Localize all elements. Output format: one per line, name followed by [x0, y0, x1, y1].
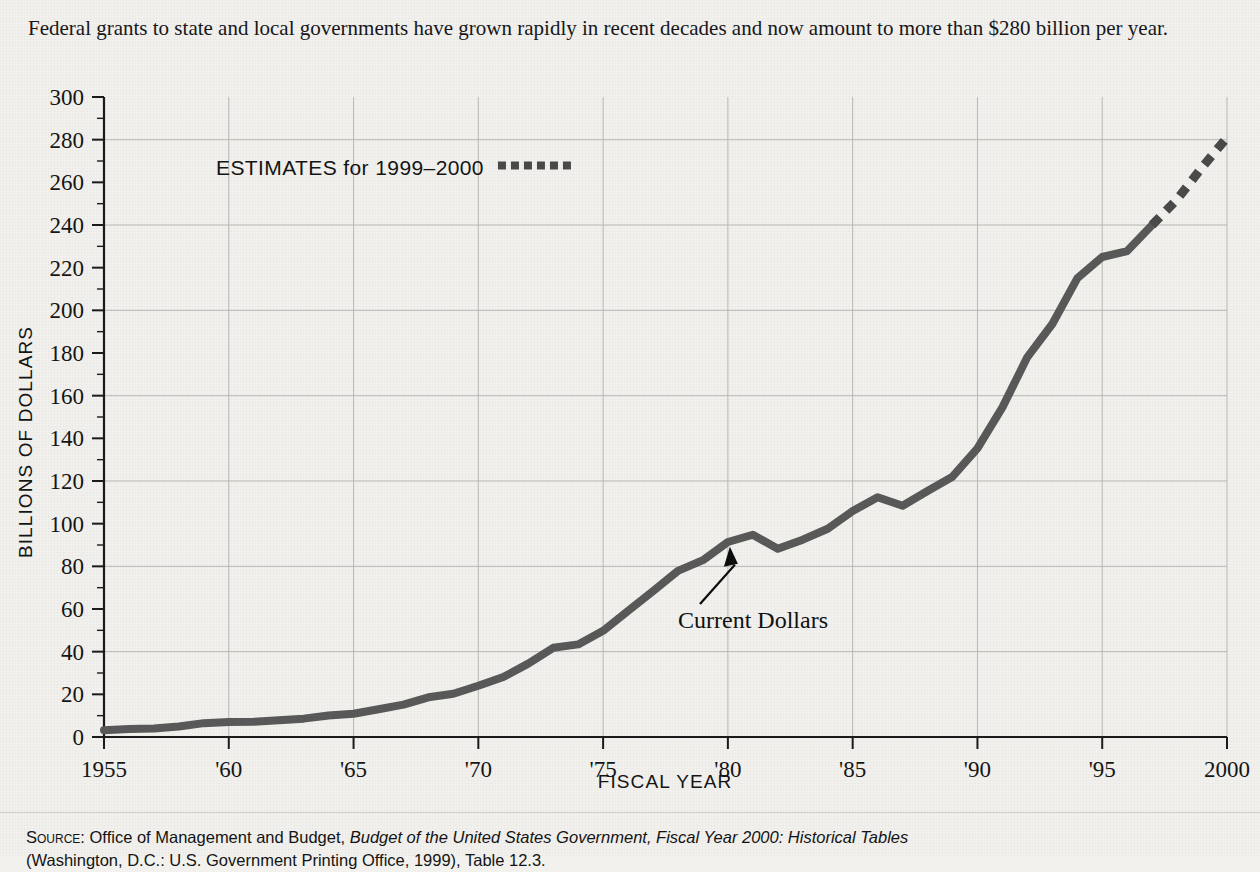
- x-tick-label: 2000: [1204, 757, 1250, 782]
- x-tick-label: '65: [340, 757, 367, 782]
- chart-caption: Federal grants to state and local govern…: [28, 14, 1218, 43]
- chart-legend: ESTIMATES for 1999–2000: [216, 156, 571, 179]
- y-tick-label: 40: [61, 640, 84, 665]
- x-tick-label: '85: [839, 757, 866, 782]
- y-tick-label: 160: [50, 384, 85, 409]
- y-tick-label: 100: [50, 512, 85, 537]
- series-line-current-dollars[interactable]: [104, 225, 1152, 730]
- source-prefix: Source:: [26, 828, 85, 846]
- x-tick-label: '90: [964, 757, 991, 782]
- x-tick-label: '95: [1089, 757, 1116, 782]
- x-tick-label: '70: [465, 757, 492, 782]
- y-tick-label: 0: [73, 725, 85, 750]
- legend-dash-segment: [550, 162, 558, 170]
- y-axis-title: BILLIONS OF DOLLARS: [15, 326, 36, 558]
- legend-dash-segment: [563, 162, 571, 170]
- legend-dash-segment: [537, 162, 545, 170]
- source-divider: [0, 812, 1260, 813]
- y-tick-label: 60: [61, 597, 84, 622]
- y-tick-label: 240: [50, 213, 85, 238]
- source-line2: (Washington, D.C.: U.S. Government Print…: [26, 851, 546, 869]
- source-note: Source: Office of Management and Budget,…: [26, 826, 1246, 872]
- y-tick-label: 300: [50, 85, 85, 110]
- annotation-arrow-icon: [700, 565, 735, 604]
- x-tick-label: 1955: [81, 757, 127, 782]
- axes-group: [104, 97, 1227, 737]
- y-tick-label: 120: [50, 469, 85, 494]
- y-tick-label: 180: [50, 341, 85, 366]
- y-tick-label: 280: [50, 128, 85, 153]
- y-tick-label: 80: [61, 554, 84, 579]
- data-series-group[interactable]: [104, 138, 1227, 731]
- gridlines-group: [104, 97, 1227, 737]
- legend-dash-segment: [511, 162, 519, 170]
- annotation-arrowhead-icon: [724, 547, 738, 567]
- y-tick-label: 140: [50, 426, 85, 451]
- y-tick-label: 260: [50, 170, 85, 195]
- dashed-line-swatch-icon: [498, 162, 571, 170]
- legend-dash-segment: [524, 162, 532, 170]
- legend-dash-segment: [498, 162, 506, 170]
- y-tick-label: 20: [61, 682, 84, 707]
- source-plain-a: Office of Management and Budget,: [85, 828, 350, 846]
- line-chart: 0204060801001201401601802002202402602803…: [0, 82, 1260, 798]
- chart-container: 0204060801001201401601802002202402602803…: [0, 82, 1260, 798]
- y-tick-label: 220: [50, 256, 85, 281]
- legend-label: ESTIMATES for 1999–2000: [216, 156, 484, 179]
- y-tick-labels: 0204060801001201401601802002202402602803…: [50, 85, 85, 750]
- axis-lines: [104, 97, 1227, 737]
- x-axis-title: FISCAL YEAR: [598, 771, 733, 792]
- series-line-estimates[interactable]: [1152, 138, 1227, 225]
- source-italic-title: Budget of the United States Government, …: [350, 828, 909, 846]
- x-tick-label: '60: [215, 757, 242, 782]
- y-tick-label: 200: [50, 298, 85, 323]
- annotation-label: Current Dollars: [678, 607, 828, 633]
